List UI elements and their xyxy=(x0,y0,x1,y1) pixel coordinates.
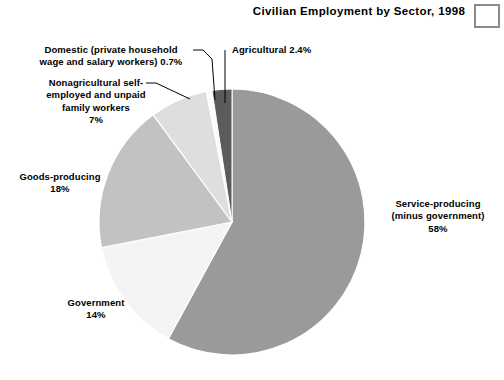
pie-label-nonagricultural-line2: employed and unpaid xyxy=(18,89,174,101)
pie-label-agricultural: Agricultural 2.4% xyxy=(232,44,362,56)
pie-label-government-line1: Government xyxy=(42,297,150,309)
pie-label-service-producing-line1: Service-producing xyxy=(376,198,500,210)
pie-label-domestic-line2: wage and salary workers) 0.7% xyxy=(20,56,202,68)
chart-page: Civilian Employment by Sector, 1998 xyxy=(0,0,504,380)
pie-label-government: Government 14% xyxy=(42,297,150,322)
pie-label-domestic-line1: Domestic (private household xyxy=(20,44,202,56)
pie-label-service-producing: Service-producing (minus government) 58% xyxy=(376,198,500,235)
pie-label-nonagricultural-line3: family workers xyxy=(18,102,174,114)
pie-label-service-producing-value: 58% xyxy=(376,223,500,235)
pie-label-nonagricultural-line1: Nonagricultural self- xyxy=(18,77,174,89)
pie-label-goods-producing-line1: Goods-producing xyxy=(8,171,112,183)
pie-label-agricultural-line1: Agricultural 2.4% xyxy=(232,44,362,56)
pie-label-service-producing-line2: (minus government) xyxy=(376,210,500,222)
pie-label-nonagricultural: Nonagricultural self- employed and unpai… xyxy=(18,77,174,127)
pie-label-government-value: 14% xyxy=(42,309,150,321)
pie-label-domestic: Domestic (private household wage and sal… xyxy=(20,44,202,69)
pie-label-goods-producing: Goods-producing 18% xyxy=(8,171,112,196)
pie-label-goods-producing-value: 18% xyxy=(8,183,112,195)
pie-label-nonagricultural-value: 7% xyxy=(18,114,174,126)
